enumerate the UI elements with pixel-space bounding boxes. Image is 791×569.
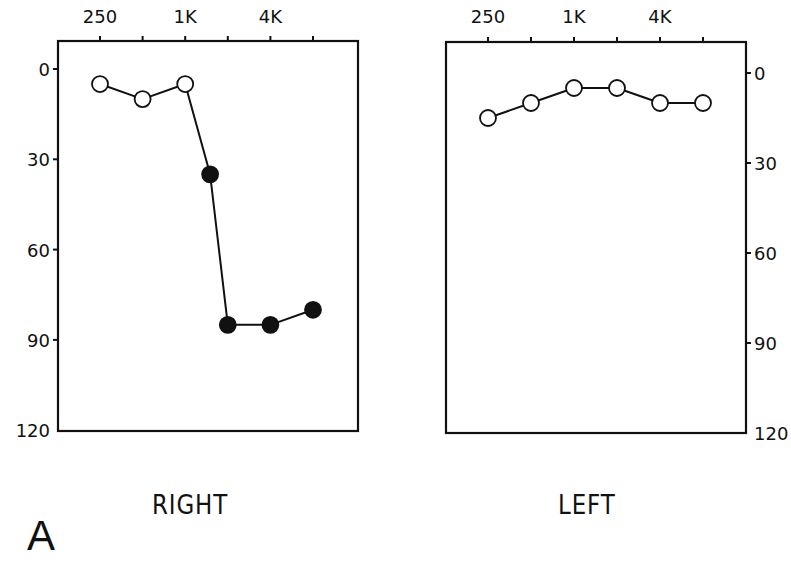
y-tick-label: 30: [27, 149, 50, 170]
x-tick-label: 250: [471, 6, 505, 27]
x-tick-label: 250: [83, 6, 117, 27]
y-tick-label: 60: [27, 240, 50, 261]
filled-marker: [202, 166, 218, 182]
y-tick-label: 0: [754, 63, 765, 84]
right-ear-label: RIGHT: [152, 489, 228, 520]
open-marker: [92, 76, 108, 92]
y-tick-label: 120: [754, 423, 788, 444]
x-tick-label: 4K: [259, 6, 283, 27]
y-tick-label: 30: [754, 153, 777, 174]
open-marker: [652, 95, 668, 111]
audiogram-figure: 2501K4K0306090120 2501K4K0306090120: [0, 0, 791, 569]
open-marker: [695, 95, 711, 111]
y-tick-label: 90: [27, 330, 50, 351]
filled-marker: [305, 302, 321, 318]
panel-letter: A: [27, 512, 55, 560]
plot-frame: [58, 41, 358, 431]
filled-marker: [262, 317, 278, 333]
right-ear-audiogram: 2501K4K0306090120: [16, 6, 358, 441]
threshold-line: [100, 84, 313, 325]
x-tick-label: 4K: [648, 6, 672, 27]
open-marker: [480, 110, 496, 126]
open-marker: [523, 95, 539, 111]
y-tick-label: 120: [16, 420, 50, 441]
left-ear-audiogram: 2501K4K0306090120: [446, 6, 788, 444]
open-marker: [566, 80, 582, 96]
open-marker: [609, 80, 625, 96]
x-tick-label: 1K: [174, 6, 198, 27]
open-marker: [135, 91, 151, 107]
filled-marker: [220, 317, 236, 333]
y-tick-label: 60: [754, 243, 777, 264]
x-tick-label: 1K: [562, 6, 586, 27]
left-ear-label: LEFT: [558, 489, 616, 520]
clipped-caption-text: [70, 560, 770, 569]
open-marker: [177, 76, 193, 92]
y-tick-label: 0: [39, 59, 50, 80]
y-tick-label: 90: [754, 333, 777, 354]
threshold-line: [488, 88, 703, 118]
